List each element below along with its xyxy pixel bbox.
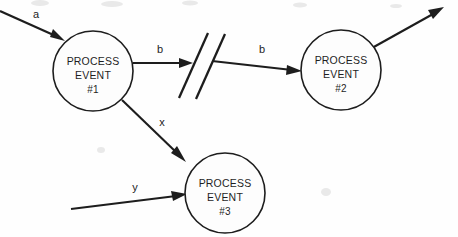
flow-label-a: a [33, 8, 40, 20]
process-event-1-line2: EVENT [75, 69, 111, 81]
process-event-2-line2: EVENT [323, 68, 359, 80]
process-event-3-line1: PROCESS [199, 177, 252, 189]
flow-out-arrow [372, 7, 444, 48]
process-event-3-line3: #3 [219, 206, 231, 217]
diagram-canvas: a b b x y [0, 0, 458, 237]
flow-label-b-right: b [259, 43, 265, 55]
process-event-1-line1: PROCESS [67, 55, 120, 67]
flow-label-x: x [159, 116, 165, 128]
process-event-2-line1: PROCESS [315, 54, 368, 66]
process-event-1-node[interactable]: PROCESS EVENT #1 [53, 31, 133, 111]
process-event-1-line3: #1 [87, 84, 99, 95]
process-event-3-line2: EVENT [207, 191, 243, 203]
double-slash-break-icon [179, 33, 225, 99]
flow-x-arrow [122, 100, 186, 162]
flow-label-y: y [132, 181, 138, 193]
process-event-2-node[interactable]: PROCESS EVENT #2 [301, 30, 381, 110]
flow-b-left-arrow [133, 58, 193, 68]
flow-b-right-arrow [212, 61, 302, 75]
dataflow-diagram-svg: a b b x y [0, 0, 458, 237]
process-event-3-node[interactable]: PROCESS EVENT #3 [185, 153, 265, 233]
flow-label-b-left: b [157, 43, 163, 55]
flow-y-arrow [71, 191, 187, 209]
process-event-2-line3: #2 [335, 83, 347, 94]
